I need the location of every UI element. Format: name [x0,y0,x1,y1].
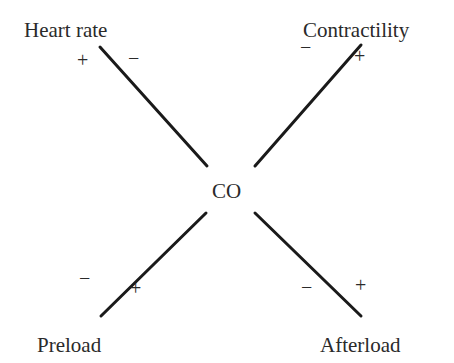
preload-sign-left: − [79,268,90,288]
contractility-connector [255,45,361,166]
afterload-sign-left: − [301,277,312,297]
node-afterload: Afterload [320,335,400,356]
center-node-co: CO [212,181,241,202]
cardiac-output-diagram: CO Heart rate Contractility Preload Afte… [0,0,454,363]
afterload-connector [255,213,361,316]
heart-rate-sign-right: − [128,48,139,68]
heart-rate-connector [100,47,207,166]
node-contractility: Contractility [303,20,409,41]
contractility-sign-left: − [300,37,311,57]
preload-connector [101,213,206,316]
afterload-sign-right: + [355,275,366,295]
contractility-sign-right: + [354,46,365,66]
node-heart-rate: Heart rate [24,20,107,41]
heart-rate-sign-left: + [77,50,88,70]
preload-sign-right: + [130,278,141,298]
node-preload: Preload [37,335,101,356]
